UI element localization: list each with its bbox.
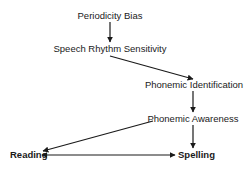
node-phonemic-awareness: Phonemic Awareness xyxy=(147,113,238,124)
diagram-canvas: Periodicity Bias Speech Rhythm Sensitivi… xyxy=(0,0,244,170)
node-phonemic-identification: Phonemic Identification xyxy=(145,79,243,90)
edge-awareness-to-reading xyxy=(43,121,153,151)
node-periodicity-bias: Periodicity Bias xyxy=(78,10,143,21)
node-speech-rhythm-sensitivity: Speech Rhythm Sensitivity xyxy=(54,43,167,54)
diagram-svg: Periodicity Bias Speech Rhythm Sensitivi… xyxy=(0,0,244,170)
edge-rhythm-to-identification xyxy=(110,56,193,79)
node-spelling: Spelling xyxy=(178,149,215,160)
node-reading: Reading xyxy=(10,149,48,160)
